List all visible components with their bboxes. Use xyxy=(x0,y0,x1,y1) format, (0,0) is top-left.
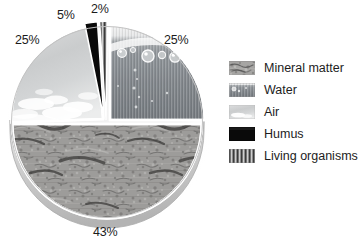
air-swatch xyxy=(229,105,255,119)
living-organisms-swatch xyxy=(229,149,255,163)
pie-slice-mineral-matter[interactable] xyxy=(8,120,208,224)
legend-item-mineral-matter[interactable]: Mineral matter xyxy=(229,57,358,79)
slice-label-humus-percent: 5% xyxy=(57,9,75,22)
slice-label-air-percent: 25% xyxy=(15,34,39,47)
legend-item-water[interactable]: Water xyxy=(229,79,358,101)
legend-label-humus: Humus xyxy=(264,128,304,141)
legend-label-air: Air xyxy=(264,106,279,119)
pie-slice-water[interactable] xyxy=(105,22,209,122)
slice-label-mineral-matter-percent: 43% xyxy=(93,226,117,239)
slice-label-water-percent: 25% xyxy=(164,34,188,47)
pie-chart-figure: 25% 5% 2% 25% 43% Mineral matter xyxy=(0,0,358,247)
slice-label-living-organisms-percent: 2% xyxy=(91,3,109,16)
legend-label-living-organisms: Living organisms xyxy=(264,150,358,163)
legend-item-air[interactable]: Air xyxy=(229,101,358,123)
legend-item-humus[interactable]: Humus xyxy=(229,123,358,145)
legend-item-living-organisms[interactable]: Living organisms xyxy=(229,145,358,167)
chart-legend: Mineral matter Water xyxy=(229,57,358,167)
legend-label-water: Water xyxy=(264,84,297,97)
legend-label-mineral-matter: Mineral matter xyxy=(264,62,344,75)
humus-swatch xyxy=(229,127,255,141)
mineral-matter-swatch xyxy=(229,61,255,75)
pie-chart-graphic: 25% 5% 2% 25% 43% xyxy=(0,0,225,247)
water-swatch xyxy=(229,83,255,97)
